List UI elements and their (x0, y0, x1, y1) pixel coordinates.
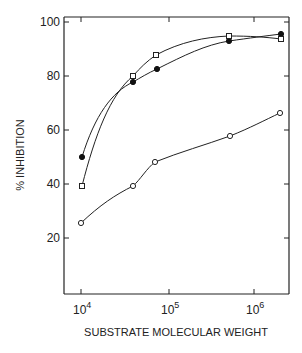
curves (81, 34, 281, 223)
y-tick-60: 60 (47, 123, 61, 137)
point-open-square (80, 184, 85, 189)
point-open-circle (78, 220, 83, 225)
x-tick-1e4: 104 (73, 300, 91, 317)
plot-frame (64, 17, 289, 294)
x-ticks (81, 17, 254, 294)
point-open-circle (227, 133, 232, 138)
chart: 100 80 60 40 20 104 105 106 SUBSTRATE MO… (0, 0, 302, 353)
y-tick-20: 20 (47, 231, 61, 245)
series-filled-circles (79, 31, 283, 159)
y-tick-100: 100 (40, 15, 60, 29)
x-tick-labels: 104 105 106 (73, 300, 264, 317)
point-open-square (154, 53, 159, 58)
point-filled-circle (154, 66, 159, 71)
curve-filled-circles (82, 34, 281, 157)
curve-open-squares (82, 36, 281, 186)
point-open-square (227, 34, 232, 39)
y-axis-label: % INHIBITION (14, 119, 26, 191)
point-open-circle (130, 183, 135, 188)
point-open-circle (152, 159, 157, 164)
point-filled-circle (278, 31, 283, 36)
y-tick-80: 80 (47, 69, 61, 83)
point-filled-circle (130, 79, 135, 84)
y-tick-labels: 100 80 60 40 20 (40, 15, 60, 245)
point-open-square (279, 37, 284, 42)
point-filled-circle (79, 154, 84, 159)
x-tick-1e6: 106 (246, 300, 264, 317)
y-ticks (64, 22, 289, 238)
point-open-circle (277, 110, 282, 115)
x-axis-label: SUBSTRATE MOLECULAR WEIGHT (84, 326, 268, 338)
point-filled-circle (226, 38, 231, 43)
y-tick-40: 40 (47, 177, 61, 191)
x-tick-1e5: 105 (161, 300, 179, 317)
series-open-circles (78, 110, 282, 225)
curve-open-circles (81, 113, 280, 223)
point-open-square (131, 74, 136, 79)
